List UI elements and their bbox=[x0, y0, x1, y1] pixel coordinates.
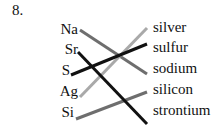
matching-lines bbox=[0, 0, 219, 136]
